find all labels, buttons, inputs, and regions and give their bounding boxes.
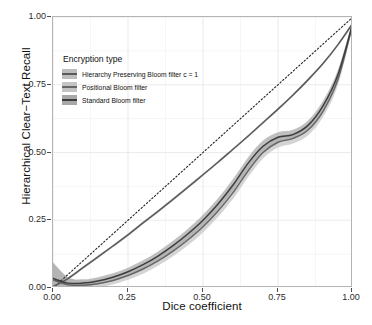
- legend-swatch: [62, 69, 77, 79]
- legend: Encryption type Hierarchy Preserving Blo…: [62, 54, 198, 108]
- legend-label: Standard Bloom filter: [82, 97, 145, 104]
- y-tick-label-0.00: 0.00: [6, 282, 46, 292]
- y-tick-label-1.00: 1.00: [6, 11, 46, 21]
- legend-entries: Hierarchy Preserving Bloom filter c = 1P…: [62, 69, 198, 105]
- y-tick-label-0.50: 0.50: [6, 147, 46, 157]
- y-tick-0.75: [47, 84, 51, 85]
- legend-title: Encryption type: [63, 54, 198, 64]
- legend-item[interactable]: Standard Bloom filter: [62, 95, 198, 105]
- x-axis-title: Dice coefficient: [52, 300, 352, 312]
- legend-swatch: [62, 82, 77, 92]
- y-tick-label-0.25: 0.25: [6, 214, 46, 224]
- y-axis-title: Hierarchical Clear−Text Recall: [20, 6, 32, 246]
- y-tick-0.00: [47, 287, 51, 288]
- legend-label: Hierarchy Preserving Bloom filter c = 1: [82, 71, 198, 78]
- legend-item[interactable]: Positional Bloom filter: [62, 82, 198, 92]
- chart-figure: Hierarchical Clear−Text Recall 1.00 0.75…: [0, 0, 372, 325]
- y-tick-0.25: [47, 219, 51, 220]
- legend-label: Positional Bloom filter: [82, 84, 147, 91]
- legend-swatch: [62, 95, 77, 105]
- y-tick-label-0.75: 0.75: [6, 79, 46, 89]
- y-tick-0.50: [47, 152, 51, 153]
- y-tick-1.00: [47, 16, 51, 17]
- legend-item[interactable]: Hierarchy Preserving Bloom filter c = 1: [62, 69, 198, 79]
